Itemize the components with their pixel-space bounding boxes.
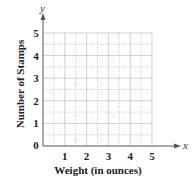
y-axis-title: Number of Stamps xyxy=(14,39,26,128)
y-tick-label: 1 xyxy=(33,117,39,129)
y-tick-label: 5 xyxy=(33,27,39,39)
x-axis-title: Weight (in ounces) xyxy=(54,164,142,177)
x-tick-label: 3 xyxy=(106,150,112,162)
chart: 12345 012345 x y Weight (in ounces) Numb… xyxy=(0,0,193,195)
grid xyxy=(43,33,152,146)
y-tick-label: 0 xyxy=(33,139,39,151)
y-tick-label: 2 xyxy=(33,95,39,107)
y-tick-label: 4 xyxy=(33,50,39,62)
x-tick-label: 4 xyxy=(127,150,133,162)
y-tick-label: 3 xyxy=(33,72,39,84)
y-axis-variable: y xyxy=(39,2,45,14)
x-axis-arrow-icon xyxy=(174,144,181,149)
x-tick-labels: 12345 xyxy=(62,150,155,162)
x-tick-label: 5 xyxy=(149,150,155,162)
x-tick-label: 1 xyxy=(62,150,68,162)
y-axis-arrow-icon xyxy=(41,13,46,20)
x-tick-label: 2 xyxy=(84,150,90,162)
y-tick-labels: 012345 xyxy=(33,27,39,151)
x-axis-variable: x xyxy=(182,139,188,151)
